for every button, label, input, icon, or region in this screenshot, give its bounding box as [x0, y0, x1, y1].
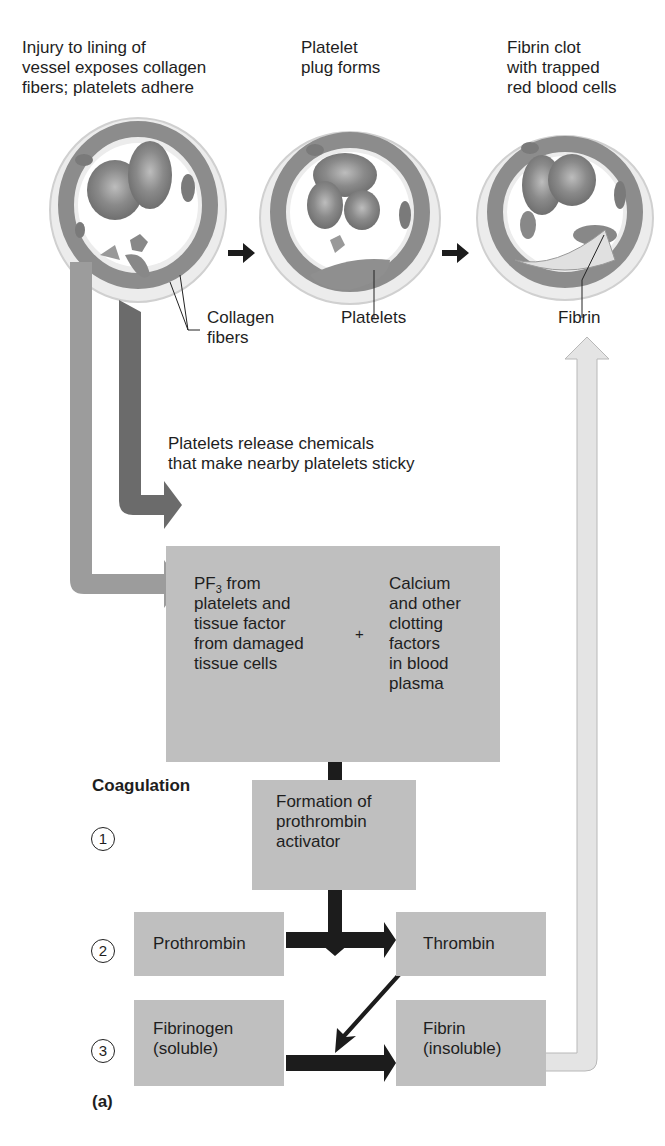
stage-caption-clot: Fibrin clot with trapped red blood cells — [507, 38, 617, 98]
fibrinogen-box: Fibrinogen (soluble) — [134, 1000, 284, 1086]
box-line: Fibrin — [423, 1019, 501, 1039]
factor-line: clotting — [389, 614, 461, 634]
caption-line: vessel exposes collagen — [22, 58, 206, 78]
callout-line: fibers — [207, 328, 274, 348]
fibrinogen-to-fibrin-arrow — [286, 1044, 396, 1082]
pf-prefix: PF — [194, 574, 216, 593]
thrombin-box: Thrombin — [396, 912, 546, 976]
prothrombin-box: Prothrombin — [134, 912, 284, 976]
caption-line: red blood cells — [507, 78, 617, 98]
caption-line: with trapped — [507, 58, 617, 78]
box-text: Fibrinogen (soluble) — [153, 1019, 233, 1059]
box-line: activator — [276, 832, 371, 852]
box-text: Formation of prothrombin activator — [276, 792, 371, 852]
vessel-plug-illustration — [260, 132, 440, 318]
step-number-3: 3 — [91, 1039, 115, 1063]
factor-line: plasma — [389, 674, 461, 694]
factor-line: factors — [389, 634, 461, 654]
clotting-factors-box: PF3 from platelets and tissue factor fro… — [166, 546, 500, 762]
callout-platelets: Platelets — [341, 308, 406, 328]
platelet-release-note: Platelets release chemicals that make ne… — [168, 434, 415, 474]
callout-line: Collagen — [207, 308, 274, 328]
factor-line: and other — [389, 594, 461, 614]
factor-line: tissue cells — [194, 654, 304, 674]
coagulation-title: Coagulation — [92, 776, 190, 796]
box-line: (insoluble) — [423, 1039, 501, 1059]
callout-line: Platelets — [341, 308, 406, 328]
box-line: Thrombin — [423, 934, 495, 954]
note-line: that make nearby platelets sticky — [168, 454, 415, 474]
factors-left-text: PF3 from platelets and tissue factor fro… — [194, 574, 304, 674]
factor-line: from damaged — [194, 634, 304, 654]
box-line: Formation of — [276, 792, 371, 812]
vessel-clot-illustration — [477, 136, 653, 318]
panel-label: (a) — [92, 1092, 113, 1112]
step-number-1: 1 — [91, 827, 115, 851]
caption-line: Fibrin clot — [507, 38, 617, 58]
callout-line: Fibrin — [558, 308, 601, 328]
step-number-2: 2 — [91, 939, 115, 963]
stage-arrow-2 — [442, 243, 469, 263]
fibrin-box: Fibrin (insoluble) — [396, 1000, 546, 1086]
caption-line: Platelet — [301, 38, 380, 58]
stage-caption-injury: Injury to lining of vessel exposes colla… — [22, 38, 206, 98]
pf-suffix: from — [222, 574, 261, 593]
box-line: Fibrinogen — [153, 1019, 233, 1039]
callout-collagen-fibers: Collagen fibers — [207, 308, 274, 348]
factor-line: platelets and — [194, 594, 304, 614]
factor-line: Calcium — [389, 574, 461, 594]
pf3-line: PF3 from — [194, 574, 304, 594]
note-line: Platelets release chemicals — [168, 434, 415, 454]
stage-caption-plug: Platelet plug forms — [301, 38, 380, 78]
box-line: prothrombin — [276, 812, 371, 832]
callout-fibrin: Fibrin — [558, 308, 601, 328]
caption-line: Injury to lining of — [22, 38, 206, 58]
prothrombin-activator-box: Formation of prothrombin activator — [252, 780, 416, 890]
caption-line: plug forms — [301, 58, 380, 78]
stage-arrow-1 — [228, 243, 255, 263]
factor-line: in blood — [389, 654, 461, 674]
factors-right-text: Calcium and other clotting factors in bl… — [389, 574, 461, 694]
caption-line: fibers; platelets adhere — [22, 78, 206, 98]
box-text: Fibrin (insoluble) — [423, 1019, 501, 1059]
pf3-arrow — [119, 300, 182, 529]
box-line: Prothrombin — [153, 934, 246, 954]
plus-sign: + — [355, 624, 364, 644]
box-line: (soluble) — [153, 1039, 233, 1059]
factor-line: tissue factor — [194, 614, 304, 634]
fibrin-feedback-arrow — [544, 337, 609, 1071]
